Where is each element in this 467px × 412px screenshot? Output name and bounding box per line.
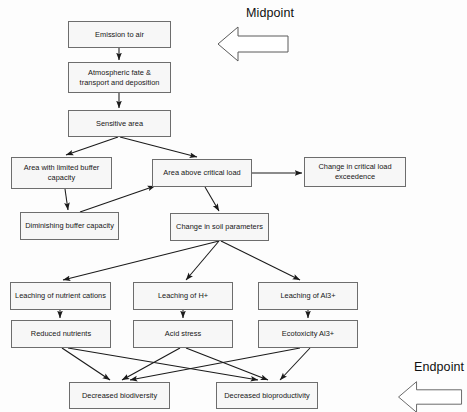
edge-soil_params-to-leach_cations bbox=[63, 241, 219, 280]
edge-soil_params-to-leach_h bbox=[186, 241, 219, 280]
node-label: Leaching of Al3+ bbox=[280, 291, 335, 301]
node-dim_buffer[interactable]: Diminishing buffer capacity bbox=[20, 212, 119, 240]
node-label: Emission to air bbox=[95, 30, 144, 40]
node-leach_al[interactable]: Leaching of Al3+ bbox=[258, 282, 358, 310]
edge-red_nutrients-to-biodiversity bbox=[62, 348, 110, 380]
node-cl_exceedence[interactable]: Change in critical loadexceedence bbox=[304, 157, 406, 187]
node-above_load[interactable]: Area above critical load bbox=[152, 159, 252, 187]
edge-soil_params-to-leach_al bbox=[221, 241, 300, 280]
edge-acid_stress-to-biodiversity bbox=[122, 348, 180, 380]
node-soil_params[interactable]: Change in soil parameters bbox=[170, 213, 269, 241]
node-label: Change in soil parameters bbox=[176, 222, 263, 232]
node-label: Leaching of nutrient cations bbox=[15, 291, 106, 301]
midpoint-label: Midpoint bbox=[246, 6, 294, 20]
midpoint-arrow bbox=[216, 24, 291, 64]
node-label: Atmospheric fate &transport and depositi… bbox=[80, 68, 160, 87]
node-limited_buffer[interactable]: Area with limited buffercapacity bbox=[11, 157, 112, 189]
edge-ecotox_al-to-bioproductivity bbox=[280, 348, 310, 380]
edge-sensitive-to-limited_buffer bbox=[66, 137, 118, 155]
node-leach_h[interactable]: Leaching of H+ bbox=[133, 282, 233, 310]
node-sensitive[interactable]: Sensitive area bbox=[68, 110, 171, 137]
edge-dim_buffer-to-above_load bbox=[80, 186, 155, 212]
node-red_nutrients[interactable]: Reduced nutrients bbox=[11, 320, 111, 348]
edge-red_nutrients-to-bioproductivity bbox=[68, 348, 258, 380]
edge-ecotox_al-to-biodiversity bbox=[130, 348, 300, 380]
node-label: Decreased biodiversity bbox=[82, 391, 157, 401]
node-label: Area with limited buffercapacity bbox=[24, 163, 100, 182]
node-label: Leaching of H+ bbox=[158, 291, 208, 301]
node-label: Ecotoxicity Al3+ bbox=[282, 329, 334, 339]
node-atmospheric[interactable]: Atmospheric fate &transport and depositi… bbox=[68, 62, 171, 93]
edge-sensitive-to-above_load bbox=[120, 137, 197, 157]
node-label: Area above critical load bbox=[163, 168, 240, 178]
node-biodiversity[interactable]: Decreased biodiversity bbox=[69, 382, 170, 409]
node-label: Reduced nutrients bbox=[31, 329, 91, 339]
edge-limited_buffer-to-dim_buffer bbox=[65, 189, 68, 210]
node-label: Sensitive area bbox=[96, 119, 143, 129]
node-emission[interactable]: Emission to air bbox=[68, 21, 171, 48]
endpoint-arrow bbox=[393, 379, 467, 412]
node-leach_cations[interactable]: Leaching of nutrient cations bbox=[10, 282, 111, 310]
edge-above_load-to-soil_params bbox=[205, 187, 219, 211]
node-label: Acid stress bbox=[165, 329, 201, 339]
node-label: Decreased bioproductivity bbox=[224, 391, 310, 401]
node-label: Change in critical loadexceedence bbox=[318, 162, 391, 181]
node-ecotox_al[interactable]: Ecotoxicity Al3+ bbox=[258, 320, 358, 348]
node-bioproductivity[interactable]: Decreased bioproductivity bbox=[216, 382, 318, 409]
flowchart-canvas: Midpoint Endpoint Emission to airAtmosph… bbox=[0, 0, 467, 412]
endpoint-label: Endpoint bbox=[414, 360, 464, 374]
node-acid_stress[interactable]: Acid stress bbox=[133, 320, 233, 348]
node-label: Diminishing buffer capacity bbox=[25, 221, 114, 231]
